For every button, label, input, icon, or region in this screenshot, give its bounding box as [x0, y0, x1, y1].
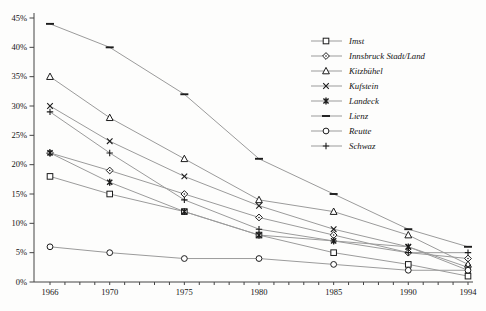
marker-circle-open: [181, 256, 187, 262]
y-tick-label: 20%: [11, 159, 27, 169]
legend-label: Innsbruck Stadt/Land: [348, 51, 426, 61]
marker-triangle-open: [106, 114, 113, 120]
x-tick-label: 1994: [460, 287, 478, 297]
legend-item-imst: Imst: [311, 36, 365, 46]
legend-item-kufstein: Kufstein: [311, 81, 379, 91]
y-tick-label: 10%: [11, 218, 27, 228]
marker-triangle-open: [465, 261, 472, 267]
marker-square-open: [47, 174, 53, 180]
series-line-kufstein: [50, 106, 468, 267]
marker-square-open: [465, 273, 471, 279]
marker-circle-open: [323, 128, 329, 134]
y-tick-label: 0%: [16, 277, 27, 287]
marker-square-open: [107, 191, 113, 197]
marker-square-open: [331, 250, 337, 256]
marker-plus: [47, 109, 53, 115]
marker-plus: [107, 150, 113, 156]
y-tick-label: 30%: [11, 101, 27, 111]
legend-item-schwaz: Schwaz: [311, 141, 376, 151]
y-tick-label: 5%: [16, 247, 27, 257]
marker-diamond-open: [181, 191, 188, 198]
x-tick-label: 1980: [251, 287, 268, 297]
legend-label: Kitzbühel: [348, 66, 383, 76]
marker-x: [107, 138, 113, 144]
marker-x: [256, 203, 262, 209]
legend-item-kitzb-hel: Kitzbühel: [311, 66, 383, 76]
marker-circle-open: [256, 256, 262, 262]
x-tick-label: 1975: [176, 287, 193, 297]
marker-square-open: [405, 262, 411, 268]
x-tick-label: 1990: [400, 287, 417, 297]
marker-triangle-open: [181, 155, 188, 161]
marker-square-open: [323, 38, 329, 44]
marker-plus: [256, 226, 262, 232]
marker-plus: [181, 197, 187, 203]
legend-label: Imst: [348, 36, 365, 46]
marker-asterisk: [107, 179, 112, 186]
y-tick-label: 40%: [11, 42, 27, 52]
line-chart: 0%5%10%15%20%25%30%35%40%45%196619701975…: [0, 0, 486, 311]
marker-triangle-open: [256, 196, 263, 202]
y-tick-label: 35%: [11, 71, 27, 81]
x-tick-label: 1985: [325, 287, 342, 297]
legend-label: Lienz: [348, 111, 369, 121]
legend-label: Reutte: [348, 126, 372, 136]
y-tick-label: 45%: [11, 13, 27, 23]
marker-circle-open: [465, 267, 471, 273]
legend-item-reutte: Reutte: [311, 126, 372, 136]
marker-diamond-open: [330, 232, 337, 239]
marker-diamond-open: [256, 214, 263, 221]
marker-circle-open: [331, 262, 337, 268]
marker-x: [47, 103, 53, 109]
legend: ImstInnsbruck Stadt/LandKitzbühelKufstei…: [311, 36, 426, 151]
marker-circle-open: [47, 244, 53, 250]
chart-page: 0%5%10%15%20%25%30%35%40%45%196619701975…: [0, 0, 486, 311]
marker-diamond-open: [106, 167, 113, 174]
x-tick-label: 1966: [42, 287, 59, 297]
legend-item-innsbruck-stadt-land: Innsbruck Stadt/Land: [311, 51, 426, 61]
x-tick-label: 1970: [101, 287, 118, 297]
marker-circle-open: [405, 267, 411, 273]
marker-plus: [405, 249, 411, 255]
marker-circle-open: [107, 250, 113, 256]
legend-label: Landeck: [348, 96, 380, 106]
marker-x: [182, 174, 188, 180]
marker-diamond-open: [323, 53, 330, 60]
marker-plus: [323, 143, 329, 149]
marker-plus: [465, 249, 471, 255]
y-tick-label: 25%: [11, 130, 27, 140]
legend-item-landeck: Landeck: [311, 96, 380, 106]
y-tick-label: 15%: [11, 189, 27, 199]
marker-triangle-open: [47, 73, 54, 79]
legend-item-lienz: Lienz: [311, 111, 369, 121]
legend-label: Kufstein: [348, 81, 379, 91]
legend-label: Schwaz: [349, 141, 376, 151]
